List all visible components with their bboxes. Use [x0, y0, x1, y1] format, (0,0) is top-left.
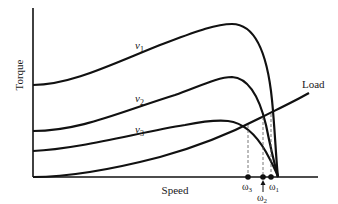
omega2-arrow-icon [261, 180, 266, 192]
y-axis-label: Torque [13, 59, 25, 90]
label-omega2: ω2 [257, 192, 268, 204]
x-axis-label: Speed [162, 184, 189, 196]
point-omega3 [245, 174, 251, 180]
label-omega3: ω3 [242, 181, 253, 194]
curve-v3 [33, 121, 278, 177]
label-omega1: ω1 [269, 181, 280, 194]
point-omega1 [268, 174, 274, 180]
label-load: Load [302, 78, 325, 90]
point-omega2 [260, 174, 266, 180]
label-v2: v2 [135, 92, 144, 107]
torque-speed-diagram: Torque Speed v1 v2 v3 Load ω3 ω2 ω1 [0, 0, 338, 204]
label-v1: v1 [135, 39, 144, 54]
label-v3: v3 [135, 123, 144, 138]
